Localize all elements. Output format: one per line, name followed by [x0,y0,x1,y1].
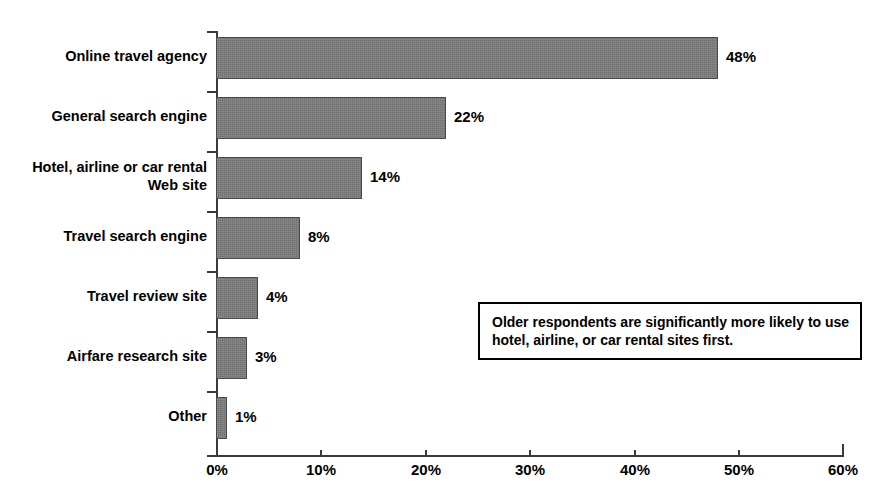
category-label-airfare-research-site: Airfare research site [0,347,207,365]
x-axis-tick [320,450,322,457]
bar-hotel-airline-car-rental-web-site [216,157,362,199]
x-axis-label-20: 20% [391,461,461,478]
x-axis-tick [216,450,218,457]
y-axis-tick [207,391,216,393]
y-axis-tick [207,151,216,153]
bar-value-online-travel-agency: 48% [726,47,756,67]
x-axis-tick [738,450,740,457]
x-axis-tick [842,450,844,457]
category-label-other: Other [0,407,207,425]
x-axis-label-10: 10% [286,461,356,478]
bar-other [216,397,227,439]
bar-airfare-research-site [216,337,247,379]
x-axis-label-30: 30% [495,461,565,478]
category-label-online-travel-agency: Online travel agency [0,47,207,65]
bar-value-travel-review-site: 4% [266,287,288,307]
category-label-general-search-engine: General search engine [0,107,207,125]
category-label-travel-search-engine: Travel search engine [0,227,207,245]
bar-general-search-engine [216,97,446,139]
x-axis-label-40: 40% [600,461,670,478]
bar-online-travel-agency [216,37,718,79]
x-axis-tick [425,450,427,457]
bar-value-other: 1% [235,407,257,427]
y-axis-tick [207,455,216,457]
bar-row: 14% [216,151,876,211]
annotation-text: Older respondents are significantly more… [492,313,850,349]
bar-row: 1% [216,391,876,451]
annotation-callout: Older respondents are significantly more… [478,302,862,360]
bar-value-general-search-engine: 22% [454,107,484,127]
y-axis-tick [207,331,216,333]
x-axis-label-50: 50% [704,461,774,478]
x-axis-label-0: 0% [182,461,252,478]
bar-value-airfare-research-site: 3% [255,347,277,367]
x-axis-tick [529,450,531,457]
bar-travel-review-site [216,277,258,319]
bar-row: 22% [216,91,876,151]
bar-travel-search-engine [216,217,300,259]
y-axis-tick [207,211,216,213]
bar-value-travel-search-engine: 8% [308,227,330,247]
bar-chart: Online travel agency General search engi… [0,0,896,504]
bar-value-hotel-airline-car-rental-web-site: 14% [370,167,400,187]
category-label-travel-review-site: Travel review site [0,287,207,305]
x-axis-tick [634,450,636,457]
bar-row: 48% [216,31,876,91]
x-axis-label-60: 60% [808,461,878,478]
category-label-hotel-airline-car-rental-web-site: Hotel, airline or car rental Web site [0,158,207,194]
y-axis-tick [207,271,216,273]
bar-row: 8% [216,211,876,271]
y-axis-tick [207,31,216,33]
y-axis-tick [207,91,216,93]
